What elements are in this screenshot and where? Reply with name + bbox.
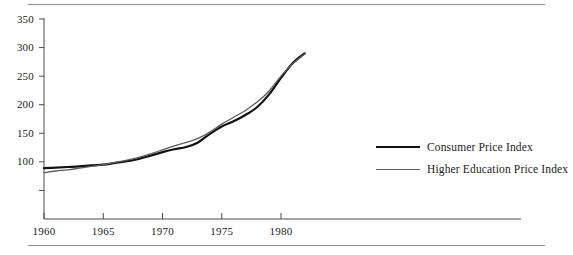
y-axis-tick-label: 100 — [4, 156, 34, 167]
y-axis-tick-marks — [39, 19, 44, 190]
chart-legend: Consumer Price Index Higher Education Pr… — [376, 136, 568, 180]
y-axis-tick-label: 150 — [4, 128, 34, 139]
legend-item-label: Consumer Price Index — [427, 141, 533, 154]
data-series-line — [44, 54, 305, 173]
y-axis-tick-label: 250 — [4, 71, 34, 82]
legend-item-label: Higher Education Price Index — [427, 163, 568, 176]
x-axis-tick-label: 1960 — [24, 226, 64, 237]
x-axis-tick-label: 1965 — [83, 226, 123, 237]
x-axis-tick-label: 1970 — [143, 226, 183, 237]
legend-item-higher-education-price-index: Higher Education Price Index — [376, 158, 568, 180]
data-series-group — [44, 53, 305, 172]
legend-line-swatch-icon — [376, 166, 420, 172]
x-axis-tick-label: 1980 — [261, 226, 301, 237]
x-axis-tick-label: 1975 — [202, 226, 242, 237]
x-axis-tick-marks — [44, 213, 281, 219]
y-axis-tick-label: 350 — [4, 14, 34, 25]
figure-container: 100150200250300350 19601965197019751980 … — [0, 0, 573, 255]
axis-group — [39, 18, 521, 219]
data-series-line — [44, 53, 305, 168]
line-chart-plot — [0, 0, 573, 255]
y-axis-tick-label: 200 — [4, 99, 34, 110]
legend-item-consumer-price-index: Consumer Price Index — [376, 136, 568, 158]
y-axis-tick-label: 300 — [4, 42, 34, 53]
legend-line-swatch-icon — [376, 144, 420, 150]
